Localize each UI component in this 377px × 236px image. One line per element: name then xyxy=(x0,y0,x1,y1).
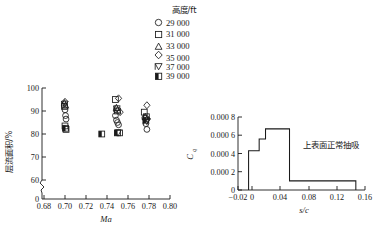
legend-item-label: 29 000 xyxy=(166,18,190,28)
right-chart-x-axis-label: s/c xyxy=(299,205,309,215)
legend-item-label: 31 000 xyxy=(166,29,190,39)
right-x-ticks: −0.02 0 0.04 0.08 0.12 0.16 xyxy=(229,186,373,202)
x-tick-label: 0.16 xyxy=(358,193,372,202)
y-tick-label: 100 xyxy=(27,84,39,93)
right-y-label-sub: q xyxy=(191,149,197,152)
triangle-marker-icon xyxy=(155,43,162,49)
legend-title: 高度/ft xyxy=(172,5,198,15)
legend-item-39000: 39 000 xyxy=(156,71,190,81)
x-tick-label: 0.08 xyxy=(302,193,316,202)
half-fill-shape xyxy=(143,117,146,123)
y-tick-label: 80 xyxy=(31,130,39,139)
series-39000 xyxy=(63,117,149,137)
legend-item-31000: 31 000 xyxy=(156,29,190,39)
suction-step-curve xyxy=(249,129,356,190)
y-axis-break-icon xyxy=(40,180,44,193)
right-y-ticks: 0.000 8 0.000 6 0.000 4 0.000 2 0 xyxy=(210,113,242,195)
x-tick-label: 0.72 xyxy=(79,202,93,211)
diamond-marker-icon xyxy=(144,102,150,109)
legend: 高度/ft 29 000 31 000 33 000 35 000 37 000 xyxy=(155,5,197,81)
circle-marker-icon xyxy=(144,126,150,132)
legend-item-29000: 29 000 xyxy=(155,18,189,28)
series-29000 xyxy=(62,107,150,132)
square-marker-icon xyxy=(113,97,119,103)
series-37000 xyxy=(62,101,151,136)
x-tick-label: 0.80 xyxy=(163,202,177,211)
y-tick-label: 0.000 4 xyxy=(210,150,235,159)
x-tick-label: 0.76 xyxy=(121,202,135,211)
half-fill-shape xyxy=(156,73,159,79)
left-chart-data-points xyxy=(61,95,150,137)
series-35000 xyxy=(62,95,151,123)
circle-marker-icon xyxy=(155,19,161,25)
y-tick-label: 60 xyxy=(31,176,39,185)
diamond-marker-icon xyxy=(155,51,162,59)
chart-suction-coefficient-distribution: C q 0.000 8 0.000 6 0.000 4 0.000 2 0 −0… xyxy=(185,113,372,215)
legend-item-label: 39 000 xyxy=(166,71,190,81)
half-fill-shape xyxy=(99,131,102,137)
y-tick-label: 0.000 2 xyxy=(210,168,235,177)
x-tick-label: 0.12 xyxy=(330,193,344,202)
x-tick-label: 0 xyxy=(250,193,254,202)
y-tick-label: 0.000 8 xyxy=(210,113,235,122)
half-fill-shape xyxy=(115,130,118,136)
square-marker-icon xyxy=(156,31,162,37)
circle-marker-icon xyxy=(63,116,69,122)
x-tick-label: 0.68 xyxy=(37,202,51,211)
series-33000 xyxy=(61,100,148,120)
x-tick-label: 0.78 xyxy=(142,202,156,211)
x-tick-label: 0.70 xyxy=(58,202,72,211)
y-tick-label: 0.000 6 xyxy=(210,131,235,140)
legend-item-33000: 33 000 xyxy=(155,41,189,51)
legend-item-label: 33 000 xyxy=(166,41,190,51)
x-tick-label: 0.74 xyxy=(100,202,114,211)
down-triangle-flag-marker-icon xyxy=(155,64,162,70)
left-chart-x-axis-label: Ma xyxy=(99,214,111,224)
left-chart-y-axis-label: 层流面积/% xyxy=(4,131,14,174)
chart-laminar-area-vs-mach: 层流面积/% 100 90 80 70 60 0 xyxy=(4,84,177,224)
series-31000 xyxy=(62,97,150,136)
x-tick-label: 0.04 xyxy=(273,193,287,202)
right-y-label-base: C xyxy=(185,154,195,160)
x-tick-label: −0.02 xyxy=(229,193,248,202)
y-tick-label: 70 xyxy=(31,153,39,162)
y-tick-label: 90 xyxy=(31,107,39,116)
figure-container: 高度/ft 29 000 31 000 33 000 35 000 37 000 xyxy=(0,0,377,236)
figure-svg: 高度/ft 29 000 31 000 33 000 35 000 37 000 xyxy=(0,0,377,236)
half-fill-shape xyxy=(63,125,66,131)
suction-annotation: 上表面正常抽吸 xyxy=(303,140,360,150)
left-x-ticks: 0.68 0.70 0.72 0.74 0.76 0.78 0.80 xyxy=(37,195,177,211)
right-chart-y-axis-label: C q xyxy=(185,149,197,160)
